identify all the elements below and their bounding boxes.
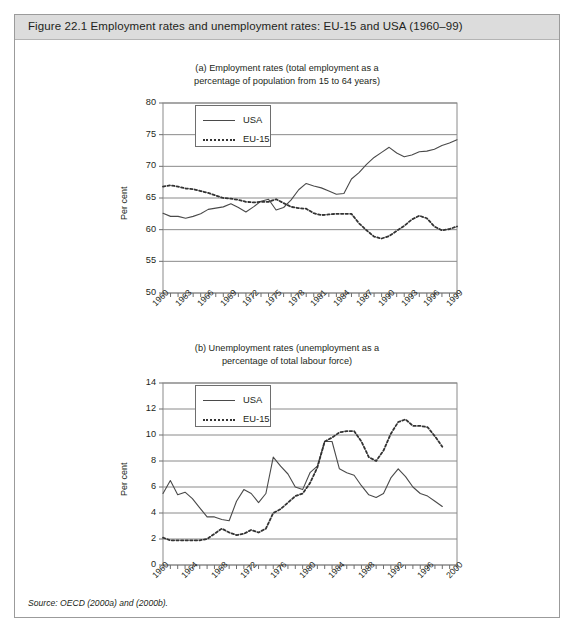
panel-a-plot: 5055606570758019601963196619691972197519… <box>15 91 559 346</box>
y-tick-label: 14 <box>134 377 156 387</box>
y-tick-label: 65 <box>134 192 156 202</box>
legend-label-usa: USA <box>243 114 262 125</box>
figure-title: Figure 22.1 Employment rates and unemplo… <box>28 20 463 32</box>
panel-b-svg <box>15 371 559 626</box>
panel-a-subtitle-line1: (a) Employment rates (total employment a… <box>15 62 559 75</box>
legend-swatch-eu-15 <box>203 139 235 141</box>
y-tick-label: 55 <box>134 255 156 265</box>
legend-swatch-eu-15 <box>203 419 235 421</box>
panel-a-svg <box>15 91 559 346</box>
y-tick-label: 4 <box>134 507 156 517</box>
y-tick-label: 6 <box>134 481 156 491</box>
legend-label-eu-15: EU-15 <box>243 133 270 144</box>
panel-b-legend: USAEU-15 <box>195 385 271 427</box>
y-tick-label: 70 <box>134 160 156 170</box>
y-tick-label: 12 <box>134 403 156 413</box>
panel-a-legend: USAEU-15 <box>195 105 271 147</box>
series-line-usa <box>163 442 442 521</box>
y-tick-label: 60 <box>134 224 156 234</box>
y-tick-label: 50 <box>134 287 156 297</box>
panel-b-subtitle: (b) Unemployment rates (unemployment as … <box>15 342 559 367</box>
panel-a-subtitle-line2: percentage of population from 15 to 64 y… <box>15 75 559 88</box>
y-tick-label: 8 <box>134 455 156 465</box>
legend-swatch-usa <box>203 400 235 401</box>
series-line-eu-15 <box>163 185 457 238</box>
y-axis-label: Per cent <box>119 186 129 220</box>
series-line-eu-15 <box>163 419 442 540</box>
figure-container: Figure 22.1 Employment rates and unemplo… <box>14 14 560 618</box>
y-tick-label: 0 <box>134 559 156 569</box>
legend-row: EU-15 <box>196 130 270 150</box>
legend-row: USA <box>196 111 270 131</box>
legend-label-usa: USA <box>243 394 262 405</box>
y-tick-label: 80 <box>134 97 156 107</box>
panel-b-subtitle-line2: percentage of total labour force) <box>15 355 559 368</box>
panel-b-subtitle-line1: (b) Unemployment rates (unemployment as … <box>15 342 559 355</box>
panel-b-plot: 0246810121419601964196819721976198019841… <box>15 371 559 626</box>
panel-a-subtitle: (a) Employment rates (total employment a… <box>15 62 559 87</box>
legend-label-eu-15: EU-15 <box>243 413 270 424</box>
y-axis-label: Per cent <box>119 462 129 496</box>
y-tick-label: 75 <box>134 129 156 139</box>
y-tick-label: 2 <box>134 533 156 543</box>
legend-swatch-usa <box>203 120 235 121</box>
legend-row: EU-15 <box>196 410 270 430</box>
legend-row: USA <box>196 391 270 411</box>
y-tick-label: 10 <box>134 429 156 439</box>
source-note: Source: OECD (2000a) and (2000b). <box>28 598 168 608</box>
series-line-usa <box>163 140 457 219</box>
